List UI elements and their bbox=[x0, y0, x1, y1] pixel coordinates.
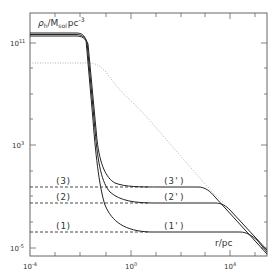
label-curve-3: (3) bbox=[55, 176, 71, 186]
y-tick-label-11: 1011 bbox=[10, 38, 25, 48]
y-tick-label-3: 103 bbox=[12, 140, 24, 150]
x-tick-label-neg4: 10-4 bbox=[23, 261, 37, 271]
x-tick-label-0: 100 bbox=[125, 261, 137, 271]
x-tick-label-4: 104 bbox=[224, 261, 236, 271]
label-curve-1: (1) bbox=[55, 221, 71, 231]
x-ticks bbox=[55, 13, 255, 256]
label-curve-2-prime: (2') bbox=[163, 192, 185, 202]
y-axis-title: ρh/Msolpc-3 bbox=[38, 16, 85, 29]
y-ticks bbox=[30, 43, 267, 248]
label-curve-2: (2) bbox=[55, 192, 71, 202]
label-curve-1-prime: (1') bbox=[163, 221, 185, 231]
x-axis-title: r/pc bbox=[215, 238, 232, 248]
y-tick-label-neg5: 10-5 bbox=[10, 243, 24, 253]
label-curve-3-prime: (3') bbox=[163, 176, 185, 186]
plot-frame bbox=[30, 13, 267, 256]
chart-canvas: ρh/Msolpc-3 r/pc (3) (2) (1) (3') (2') (… bbox=[0, 0, 275, 277]
